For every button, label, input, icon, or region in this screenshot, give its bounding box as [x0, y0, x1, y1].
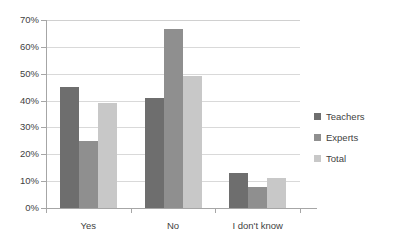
- y-axis-label: 70%: [20, 15, 39, 25]
- bar-experts-yes: [79, 141, 98, 208]
- legend-swatch-icon: [314, 134, 321, 141]
- x-tick: [215, 208, 216, 213]
- x-category-label-no: No: [131, 220, 216, 231]
- bar-chart: 0%10%20%30%40%50%60%70% YesNoI don't kno…: [0, 0, 400, 245]
- y-axis-label: 30%: [20, 122, 39, 132]
- y-axis-label: 0%: [25, 203, 39, 213]
- bar-total-yes: [98, 103, 117, 208]
- bar-teachers-yes: [60, 87, 79, 208]
- y-axis-label: 10%: [20, 176, 39, 186]
- bar-experts-no: [164, 29, 183, 208]
- x-category-label-i-don-t-know: I don't know: [215, 220, 300, 231]
- legend-item-experts[interactable]: Experts: [314, 129, 398, 146]
- bar-teachers-no: [145, 98, 164, 208]
- bar-experts-i-don-t-know: [248, 187, 267, 208]
- legend-label: Teachers: [326, 111, 365, 122]
- legend-swatch-icon: [314, 113, 321, 120]
- x-tick: [131, 208, 132, 213]
- legend: TeachersExpertsTotal: [314, 108, 398, 171]
- y-axis-label: 20%: [20, 149, 39, 159]
- legend-item-teachers[interactable]: Teachers: [314, 108, 398, 125]
- legend-label: Total: [326, 153, 346, 164]
- legend-label: Experts: [326, 132, 358, 143]
- x-axis-line: [46, 208, 317, 209]
- bar-total-no: [183, 76, 202, 208]
- x-tick: [46, 208, 47, 213]
- y-axis-label: 40%: [20, 96, 39, 106]
- y-axis-label: 60%: [20, 42, 39, 52]
- x-category-label-yes: Yes: [46, 220, 131, 231]
- legend-item-total[interactable]: Total: [314, 150, 398, 167]
- legend-swatch-icon: [314, 155, 321, 162]
- bar-total-i-don-t-know: [267, 178, 286, 208]
- bar-teachers-i-don-t-know: [229, 173, 248, 208]
- plot-bars: [46, 20, 300, 208]
- y-axis-label: 50%: [20, 69, 39, 79]
- x-tick: [300, 208, 301, 213]
